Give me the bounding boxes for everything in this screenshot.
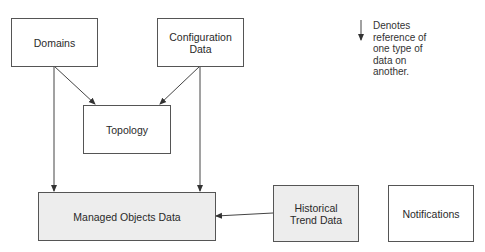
node-topology: Topology — [83, 105, 171, 154]
node-label: Notifications — [402, 208, 459, 220]
node-domains: Domains — [11, 18, 98, 67]
legend-line: another. — [373, 66, 463, 78]
node-label-line2: Data — [189, 43, 211, 55]
node-configuration-data: Configuration Data — [157, 18, 244, 67]
node-managed-objects-data: Managed Objects Data — [38, 192, 216, 241]
node-label-line1: Historical — [294, 202, 337, 214]
node-label-line2: Trend Data — [290, 214, 342, 226]
legend-line: data on — [373, 55, 463, 67]
legend-line: Denotes — [373, 20, 463, 32]
node-notifications: Notifications — [388, 185, 474, 242]
edge-historical-to-managed-objects — [216, 213, 273, 216]
legend-description: Denotes reference of one type of data on… — [373, 20, 463, 78]
legend-line: one type of — [373, 43, 463, 55]
edge-domains-to-topology — [54, 66, 95, 104]
legend-line: reference of — [373, 32, 463, 44]
node-label: Topology — [106, 124, 148, 136]
node-label: Managed Objects Data — [73, 211, 180, 223]
node-label: Domains — [34, 37, 75, 49]
node-historical-trend-data: Historical Trend Data — [273, 185, 359, 242]
edge-configuration-to-topology — [160, 66, 200, 104]
node-label-line1: Configuration — [169, 31, 231, 43]
